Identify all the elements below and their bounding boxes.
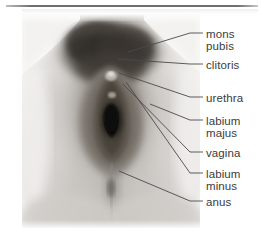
top-divider-rule	[6, 5, 258, 7]
label-labium-majus-line1: labium	[206, 116, 240, 128]
label-labium-minus-line1: labium	[206, 169, 240, 181]
anatomy-figure: mons pubis clitoris urethra labium majus…	[0, 0, 261, 239]
photograph-panel	[22, 14, 200, 228]
label-mons-pubis-line1: mons	[206, 29, 235, 41]
label-labium-minus-line2: minus	[206, 181, 237, 193]
label-vagina: vagina	[206, 148, 241, 160]
anatomy-photograph	[22, 14, 200, 228]
label-mons-pubis-line2: pubis	[206, 41, 234, 53]
label-anus: anus	[206, 197, 231, 209]
label-clitoris: clitoris	[206, 60, 239, 72]
label-urethra: urethra	[206, 93, 243, 105]
label-labium-majus-line2: majus	[206, 128, 237, 140]
